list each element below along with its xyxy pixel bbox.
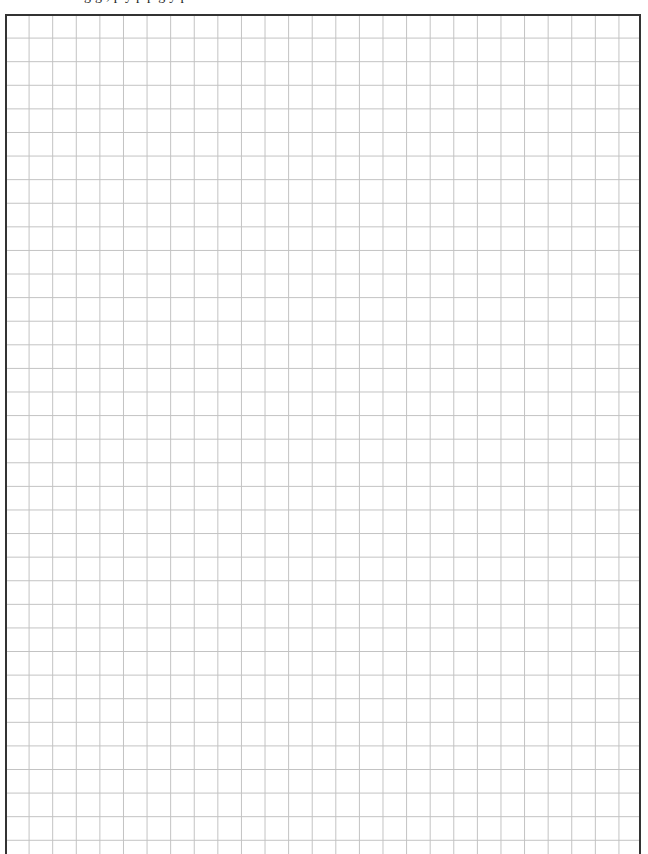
graph-paper-grid [5,14,641,854]
cropped-header-clip: g g , p y p p g y p [0,0,648,9]
cropped-header-text: g g , p y p p g y p [84,0,464,9]
